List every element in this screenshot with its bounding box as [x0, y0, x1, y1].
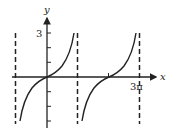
tangent-graph: y x 3 3π — [0, 0, 172, 132]
x-axis-label: x — [160, 71, 166, 82]
x-tick-label-3pi: 3π — [130, 81, 143, 92]
y-axis-label: y — [43, 4, 50, 15]
y-tick-label-3: 3 — [36, 28, 42, 39]
asymptotes — [16, 33, 140, 124]
